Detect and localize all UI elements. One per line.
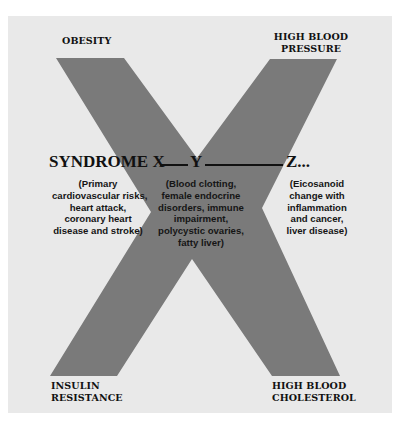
rule-y-z: [205, 164, 283, 166]
syndrome-heading: SYNDROME X Y Z...: [0, 152, 400, 174]
label-high-blood-pressure: HIGH BLOOD PRESSURE: [271, 31, 351, 55]
desc-line: impairment,: [155, 213, 247, 225]
desc-line: (Eicosanoid: [274, 178, 360, 190]
desc-line: heart attack,: [52, 202, 144, 214]
label-line: HIGH BLOOD: [271, 31, 351, 43]
desc-line: inflammation: [274, 202, 360, 214]
desc-line: disorders, immune: [155, 202, 247, 214]
label-obesity: OBESITY: [62, 35, 111, 47]
desc-line: (Blood clotting,: [155, 178, 247, 190]
desc-line: cardiovascular risks,: [52, 190, 144, 202]
desc-line: disease and stroke): [52, 225, 144, 237]
heading-syndrome-x: SYNDROME X: [49, 152, 165, 172]
desc-line: liver disease): [274, 225, 360, 237]
label-line: CHOLESTEROL: [272, 392, 356, 404]
label-insulin-resistance: INSULIN RESISTANCE: [51, 380, 123, 404]
label-line: RESISTANCE: [51, 392, 123, 404]
label-line: OBESITY: [62, 35, 111, 47]
desc-line: fatty liver): [155, 237, 247, 249]
description-x: (Primary cardiovascular risks, heart att…: [52, 178, 144, 237]
label-high-blood-cholesterol: HIGH BLOOD CHOLESTEROL: [272, 380, 356, 404]
heading-y: Y: [190, 152, 202, 172]
heading-z: Z...: [286, 152, 310, 172]
description-z: (Eicosanoid change with inflammation and…: [274, 178, 360, 237]
desc-line: change with: [274, 190, 360, 202]
desc-line: coronary heart: [52, 213, 144, 225]
label-line: INSULIN: [51, 380, 123, 392]
description-y: (Blood clotting, female endocrine disord…: [155, 178, 247, 249]
desc-line: female endocrine: [155, 190, 247, 202]
desc-line: polycystic ovaries,: [155, 225, 247, 237]
label-line: HIGH BLOOD: [272, 380, 356, 392]
desc-line: and cancer,: [274, 213, 360, 225]
desc-line: (Primary: [52, 178, 144, 190]
label-line: PRESSURE: [271, 43, 351, 55]
rule-x-y: [160, 164, 188, 166]
